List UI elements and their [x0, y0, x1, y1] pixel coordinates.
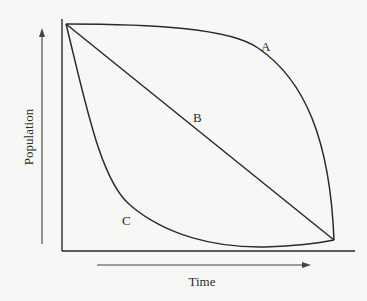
- y-direction-arrow-icon: [39, 28, 45, 244]
- survivorship-chart: A B C Time Population: [0, 0, 367, 301]
- curve-b: [66, 24, 334, 240]
- curve-c: [66, 24, 334, 247]
- y-axis-label: Population: [21, 108, 36, 165]
- curve-b-label: B: [193, 110, 202, 125]
- x-direction-arrow-icon: [97, 262, 311, 268]
- x-axis-label: Time: [189, 274, 216, 289]
- curve-c-label: C: [122, 213, 131, 228]
- curve-a-label: A: [261, 39, 271, 54]
